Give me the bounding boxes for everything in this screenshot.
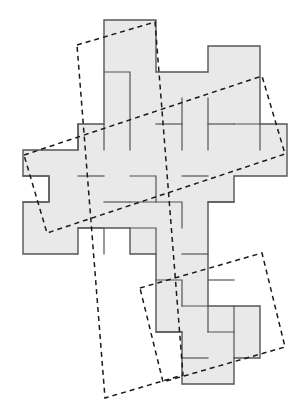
figure-caption: [0, 393, 308, 403]
piece-divider: [23, 176, 49, 202]
figure-root: [0, 0, 308, 403]
piece-divider: [78, 228, 104, 254]
polyomino-tiling-svg: [0, 0, 308, 403]
